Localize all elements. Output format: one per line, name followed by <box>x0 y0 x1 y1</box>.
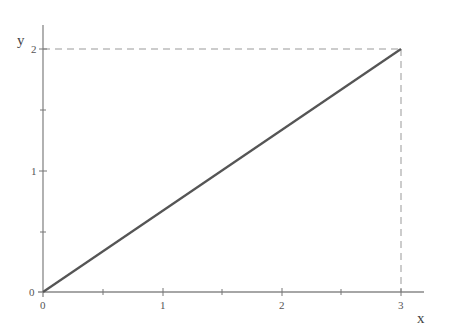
y-tick-label-0: 0 <box>29 286 35 298</box>
y-tick-label-1: 1 <box>31 165 37 177</box>
y-tick-label-2: 2 <box>31 43 37 55</box>
x-tick-label-3: 3 <box>398 299 404 311</box>
y-axis-label: y <box>17 32 25 48</box>
x-axis-label: x <box>417 310 425 326</box>
x-tick-label-2: 2 <box>279 299 285 311</box>
x-tick-label-0: 0 <box>40 299 46 311</box>
line-chart: 2 1 0 0 1 2 3 y x <box>0 0 449 336</box>
data-line <box>43 49 401 292</box>
x-tick-label-1: 1 <box>160 299 166 311</box>
